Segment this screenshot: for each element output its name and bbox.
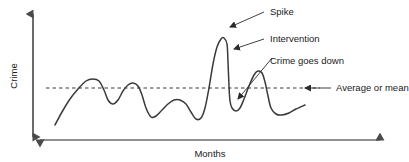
diagram-canvas: Crime Months Spike Intervention Crime go… xyxy=(0,0,409,162)
annotation-spike-label: Spike xyxy=(270,6,294,17)
annotation-crime-goes-down-label: Crime goes down xyxy=(270,55,344,66)
intervention-leader-line xyxy=(234,39,264,49)
y-axis: Crime xyxy=(8,14,33,137)
crime-data-curve xyxy=(55,38,305,125)
spike-leader-line xyxy=(230,12,264,27)
x-axis: Months xyxy=(40,140,380,159)
annotation-average-label: Average or mean xyxy=(336,82,409,93)
crime-trend-diagram: Crime Months Spike Intervention Crime go… xyxy=(0,0,409,162)
annotation-intervention-label: Intervention xyxy=(270,33,320,44)
y-axis-label: Crime xyxy=(8,63,19,88)
x-axis-label: Months xyxy=(194,148,225,159)
